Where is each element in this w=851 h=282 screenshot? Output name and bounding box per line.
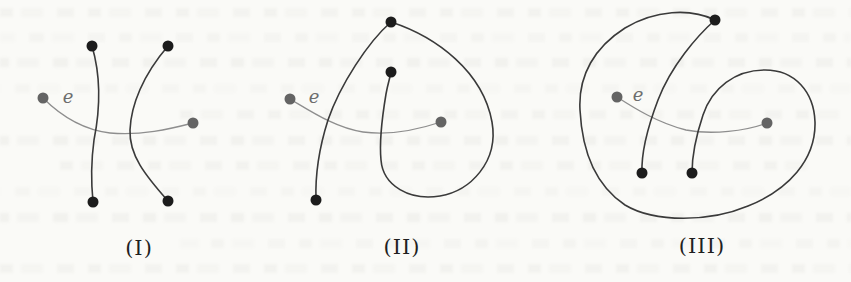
black-vertex-dot	[88, 197, 99, 208]
black-edge-curve	[380, 22, 493, 197]
black-vertex-dot	[163, 196, 174, 207]
figure-1-caption: (I)	[125, 236, 153, 260]
figure-I	[38, 41, 199, 208]
gray-vertex-dot	[285, 94, 296, 105]
black-edge-curve	[580, 12, 815, 218]
black-vertex-dot	[311, 195, 322, 206]
black-vertex-dot	[87, 41, 98, 52]
figure-2-caption: (II)	[384, 235, 421, 259]
black-edge-curve	[316, 22, 391, 200]
gray-vertex-dot	[762, 118, 773, 129]
black-edge-curve	[92, 46, 99, 202]
figure-3-caption: (III)	[679, 234, 725, 258]
gray-vertex-dot	[612, 92, 623, 103]
black-vertex-dot	[687, 168, 698, 179]
figure-III	[580, 12, 815, 218]
gray-vertex-dot	[436, 117, 447, 128]
edge-e-label-figure-2: e	[309, 86, 320, 107]
black-edge-curve	[642, 20, 715, 173]
black-vertex-dot	[386, 67, 397, 78]
black-edge-curve	[130, 46, 168, 201]
gray-vertex-dot	[38, 93, 49, 104]
black-vertex-dot	[710, 15, 721, 26]
scanned-figure-page: e e e (I) (II) (III)	[0, 0, 851, 282]
edge-e-label-figure-3: e	[633, 84, 644, 105]
edge-e-label-figure-1: e	[63, 86, 74, 107]
black-vertex-dot	[163, 41, 174, 52]
black-vertex-dot	[386, 17, 397, 28]
figure-II	[285, 17, 494, 206]
gray-vertex-dot	[188, 118, 199, 129]
black-vertex-dot	[637, 168, 648, 179]
